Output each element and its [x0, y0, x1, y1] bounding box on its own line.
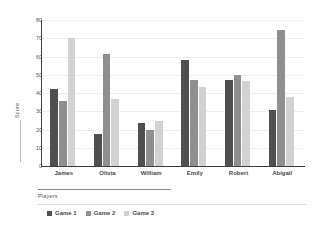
bar[interactable] — [190, 80, 198, 166]
x-tick-label: Emily — [173, 170, 217, 176]
y-tick-label: 60 — [24, 54, 42, 60]
x-tick-label: Abigail — [260, 170, 304, 176]
bar[interactable] — [68, 38, 76, 166]
bar[interactable] — [269, 110, 277, 166]
y-tick-label: 30 — [24, 108, 42, 114]
x-axis-title: Players — [38, 193, 58, 199]
bar[interactable] — [277, 30, 285, 166]
bar[interactable] — [286, 97, 294, 166]
legend-label: Game 1 — [55, 210, 77, 216]
bar[interactable] — [199, 87, 207, 166]
legend-divider — [38, 204, 306, 205]
x-tick-label: Olivia — [86, 170, 130, 176]
y-tick-label: 0 — [24, 163, 42, 169]
bar[interactable] — [138, 123, 146, 166]
bar-chart-figure: Score 01020304050607080 Players Game 1Ga… — [0, 0, 315, 232]
y-tick-label: 20 — [24, 127, 42, 133]
chart-legend: Game 1Game 2Game 3 — [47, 210, 154, 216]
x-tick-label: Robert — [217, 170, 261, 176]
bar-group — [173, 20, 217, 166]
x-axis-title-rule — [38, 189, 171, 190]
y-tick-label: 40 — [24, 90, 42, 96]
bar[interactable] — [225, 80, 233, 166]
bar-group — [42, 20, 86, 166]
bar[interactable] — [146, 130, 154, 166]
bar[interactable] — [103, 54, 111, 166]
legend-label: Game 2 — [94, 210, 116, 216]
y-tick-label: 50 — [24, 72, 42, 78]
bar-group — [260, 20, 304, 166]
x-axis-spine — [42, 166, 305, 167]
y-tick-label: 70 — [24, 35, 42, 41]
bar[interactable] — [50, 89, 58, 166]
bar-group — [129, 20, 173, 166]
bar[interactable] — [181, 60, 189, 166]
bar[interactable] — [155, 121, 163, 166]
bar-group — [86, 20, 130, 166]
x-tick-label: James — [42, 170, 86, 176]
bar[interactable] — [111, 99, 119, 166]
y-tick-label: 10 — [24, 145, 42, 151]
bar[interactable] — [242, 81, 250, 166]
legend-swatch-icon — [47, 211, 52, 216]
bar[interactable] — [94, 134, 102, 166]
bar[interactable] — [59, 101, 67, 166]
legend-item[interactable]: Game 2 — [86, 210, 116, 216]
legend-item[interactable]: Game 3 — [124, 210, 154, 216]
legend-swatch-icon — [124, 211, 129, 216]
bar[interactable] — [234, 75, 242, 166]
legend-label: Game 3 — [132, 210, 154, 216]
x-tick-label: William — [129, 170, 173, 176]
legend-swatch-icon — [86, 211, 91, 216]
legend-item[interactable]: Game 1 — [47, 210, 77, 216]
bar-group — [217, 20, 261, 166]
y-tick-label: 80 — [24, 17, 42, 23]
plot-area — [42, 20, 304, 166]
